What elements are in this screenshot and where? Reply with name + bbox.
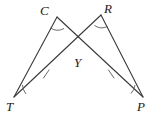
segment-TC bbox=[14, 17, 57, 97]
vertex-label-R: R bbox=[104, 2, 112, 15]
tick-segment-YP bbox=[109, 70, 115, 78]
angle-arc-R bbox=[95, 26, 108, 28]
segment-RP bbox=[101, 15, 143, 97]
vertex-label-C: C bbox=[40, 4, 49, 17]
vertex-label-P: P bbox=[137, 100, 145, 113]
geometry-figure: C R Y T P bbox=[0, 0, 158, 120]
vertex-label-Y: Y bbox=[74, 56, 81, 69]
angle-arc-C bbox=[51, 28, 65, 30]
segment-CY-to-P bbox=[57, 17, 143, 97]
segment-RY-to-T bbox=[14, 15, 101, 97]
tick-segment-TY bbox=[44, 70, 50, 78]
vertex-label-T: T bbox=[6, 100, 13, 113]
